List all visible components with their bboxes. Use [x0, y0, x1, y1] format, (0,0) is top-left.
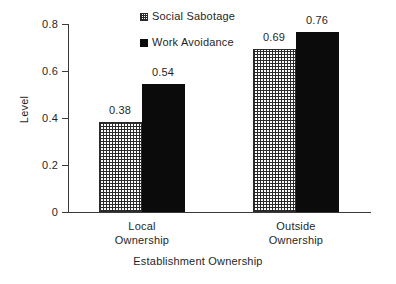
- x-axis-title: Establishment Ownership: [0, 256, 396, 267]
- legend-item-social-sabotage: Social Sabotage: [140, 11, 235, 22]
- y-tick-mark-0: [62, 212, 69, 213]
- x-category-label-local: Local Ownership: [82, 219, 202, 247]
- y-tick-label-0: 0: [18, 207, 58, 218]
- y-tick-label-0.2: 0.2: [18, 160, 58, 171]
- bar-local-work-avoidance: [142, 84, 185, 212]
- y-tick-mark-0.2: [62, 165, 69, 166]
- y-tick-mark-0.6: [62, 71, 69, 72]
- y-tick-mark-0.8: [62, 24, 69, 25]
- bar-value-local-work-avoidance: 0.54: [140, 67, 186, 78]
- y-tick-mark-0.4: [62, 118, 69, 119]
- legend-item-work-avoidance: Work Avoidance: [140, 37, 235, 48]
- legend-label-work-avoidance: Work Avoidance: [152, 37, 234, 48]
- bar-value-outside-work-avoidance: 0.76: [294, 15, 340, 26]
- solid-swatch-icon: [140, 39, 148, 47]
- x-category-label-outside-line1: Outside: [236, 219, 356, 233]
- x-axis-line: [68, 212, 371, 213]
- bar-outside-social-sabotage: [253, 49, 296, 212]
- hatched-swatch-icon: [140, 13, 148, 21]
- x-category-label-local-line2: Ownership: [82, 233, 202, 247]
- x-category-label-local-line1: Local: [82, 219, 202, 233]
- y-tick-label-0.8: 0.8: [18, 19, 58, 30]
- bar-chart: Social Sabotage Work Avoidance 0.8 0.6 0…: [0, 0, 396, 284]
- bar-value-local-social-sabotage: 0.38: [97, 105, 143, 116]
- bar-outside-work-avoidance: [296, 32, 339, 212]
- y-tick-label-0.6: 0.6: [18, 66, 58, 77]
- chart-legend: Social Sabotage Work Avoidance: [140, 11, 235, 63]
- x-category-label-outside: Outside Ownership: [236, 219, 356, 247]
- legend-label-social-sabotage: Social Sabotage: [152, 11, 235, 22]
- bar-local-social-sabotage: [99, 122, 142, 212]
- y-axis-title: Level: [19, 80, 30, 140]
- x-category-label-outside-line2: Ownership: [236, 233, 356, 247]
- bar-value-outside-social-sabotage: 0.69: [251, 32, 297, 43]
